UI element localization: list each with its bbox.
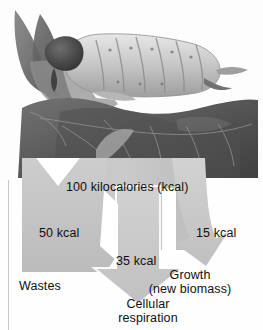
cellular-respiration-title: Cellular respiration [118,297,177,325]
input-label: 100 kilocalories (kcal) [66,180,188,194]
growth-amount-label: 15 kcal [196,226,236,240]
wastes-amount-label: 50 kcal [39,226,79,240]
cellular-respiration-title-line2: respiration [118,311,177,325]
cellular-respiration-amount-label: 35 kcal [116,254,156,268]
growth-title: Growth (new biomass) [149,268,232,296]
cellular-respiration-title-line1: Cellular [118,297,177,311]
growth-title-line2: (new biomass) [149,282,232,296]
wastes-title-label: Wastes [19,279,61,293]
growth-title-line1: Growth [149,268,232,282]
centre-right-gap [162,188,176,264]
energy-budget-figure: 100 kilocalories (kcal) 50 kcal Wastes 3… [0,0,263,330]
